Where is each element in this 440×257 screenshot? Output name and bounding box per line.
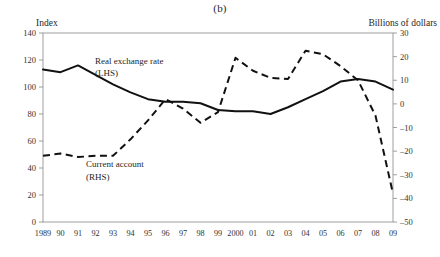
x-tick-label: 1989 (35, 229, 51, 238)
x-tick-label: 97 (179, 229, 187, 238)
right-axis-ticks: –50–40–30–20–100102030 (393, 28, 413, 227)
x-tick-label: 03 (284, 229, 292, 238)
right-tick-label: –20 (399, 146, 413, 156)
left-axis-ticks: 020406080100120140 (23, 28, 43, 227)
left-tick-label: 20 (28, 190, 37, 200)
right-tick-label: 0 (400, 99, 404, 109)
x-tick-label: 91 (74, 229, 82, 238)
x-tick-label: 98 (196, 229, 204, 238)
right-tick-label: 20 (400, 52, 409, 62)
x-tick-label: 95 (144, 229, 152, 238)
left-tick-label: 100 (23, 82, 36, 92)
series2-annotation-line1: Current account (86, 159, 144, 169)
series2-annotation-line2: (RHS) (86, 172, 110, 182)
x-tick-label: 93 (109, 229, 117, 238)
x-tick-label: 09 (389, 229, 397, 238)
x-tick-label: 96 (161, 229, 169, 238)
left-tick-label: 120 (23, 55, 36, 65)
right-tick-label: –40 (399, 193, 413, 203)
left-tick-label: 60 (28, 136, 37, 146)
x-tick-label: 07 (354, 229, 362, 238)
x-tick-label: 99 (214, 229, 222, 238)
series1-annotation-line2: (LHS) (95, 68, 118, 78)
x-tick-label: 92 (91, 229, 99, 238)
figure-container: (b) Index Billions of dollars 0204060801… (0, 0, 440, 257)
left-tick-label: 0 (32, 217, 36, 227)
line-chart-plot: 020406080100120140 –50–40–30–20–10010203… (0, 0, 440, 257)
left-tick-label: 40 (28, 163, 37, 173)
x-tick-label: 08 (371, 229, 379, 238)
right-tick-label: –30 (399, 170, 413, 180)
x-tick-label: 04 (301, 229, 309, 238)
x-tick-label: 90 (56, 229, 64, 238)
right-tick-label: –10 (399, 123, 413, 133)
right-tick-label: 10 (400, 75, 409, 85)
series1-annotation-line1: Real exchange rate (95, 56, 163, 66)
x-tick-label: 06 (336, 229, 344, 238)
x-tick-label: 2000 (227, 229, 243, 238)
x-tick-label: 05 (319, 229, 327, 238)
left-tick-label: 80 (28, 109, 37, 119)
x-tick-label: 01 (249, 229, 257, 238)
x-tick-label: 94 (126, 229, 134, 238)
right-tick-label: –50 (399, 217, 413, 227)
x-tick-label: 02 (266, 229, 274, 238)
left-tick-label: 140 (23, 28, 36, 38)
right-tick-label: 30 (400, 28, 409, 38)
x-axis-ticks: 1989909192939495969798992000010203040506… (35, 229, 397, 238)
